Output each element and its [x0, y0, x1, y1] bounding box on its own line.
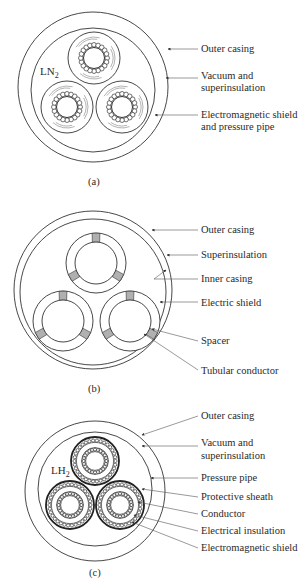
- leader-em-shield: [132, 522, 198, 548]
- conductor-assembly: [100, 291, 160, 351]
- conductor-group: [46, 437, 144, 529]
- em-shield-strand: [88, 479, 91, 482]
- medium-label: LN2: [40, 65, 59, 80]
- conductor-assembly: [66, 233, 126, 293]
- em-shield-strand: [117, 483, 120, 486]
- em-shield-strand: [84, 478, 87, 481]
- conductor-strand: [57, 504, 60, 507]
- label-protective-sheath: Protective sheath: [201, 491, 274, 502]
- conductor-strand: [80, 501, 83, 504]
- leader-protective-sheath: [142, 489, 198, 497]
- em-shield-strand: [111, 470, 114, 473]
- conductor-assembly: [68, 32, 120, 84]
- conductor-core: [112, 97, 133, 118]
- em-shield-strand: [139, 503, 142, 506]
- conductor-assembly: [33, 291, 93, 351]
- conductor-strand: [105, 457, 108, 460]
- em-shield-strand: [74, 467, 77, 470]
- conductor-group: [41, 32, 148, 133]
- em-shield-strand: [74, 452, 77, 455]
- em-shield-strand: [48, 500, 51, 503]
- conductor-strand: [71, 515, 74, 518]
- label-inner-casing: Inner casing: [201, 273, 253, 284]
- em-shield-strand: [48, 503, 51, 506]
- conductor-strand: [107, 506, 110, 509]
- figure-c: LH2 Outer casing Vacuum and superinsulat…: [25, 410, 298, 579]
- label-outer-casing: Outer casing: [201, 410, 255, 421]
- em-shield-strand: [113, 452, 116, 455]
- em-shield-strand: [89, 507, 92, 510]
- em-shield-strand: [99, 440, 102, 443]
- conductor-strand: [82, 462, 85, 465]
- em-shield-strand: [89, 503, 92, 506]
- conductor-strand: [66, 492, 69, 495]
- em-shield-strand: [59, 522, 62, 525]
- conductor-strand: [121, 515, 124, 518]
- em-shield-strand: [63, 523, 66, 526]
- em-shield-strand: [78, 522, 81, 525]
- caption-a: (a): [88, 176, 100, 188]
- conductor-strand: [105, 460, 108, 463]
- em-shield-strand: [109, 522, 112, 525]
- label-superinsulation: Superinsulation: [201, 249, 268, 260]
- label-pressure-pipe: Pressure pipe: [201, 472, 258, 483]
- em-shield-strand: [70, 483, 73, 486]
- label-vacuum-and: Vacuum and: [201, 70, 254, 81]
- label-vacuum-and: Vacuum and: [201, 437, 254, 448]
- cable-cross-section-diagram: LN2 Outer casing Vacuum and superinsulat…: [0, 0, 307, 582]
- label-em-shield: Electromagnetic shield: [201, 109, 298, 120]
- label-spacer: Spacer: [201, 335, 230, 346]
- conductor-assembly: [41, 81, 93, 133]
- em-shield-strand: [103, 478, 106, 481]
- em-shield-strand: [73, 463, 76, 466]
- conductor-strand: [82, 460, 85, 463]
- em-shield-strand: [67, 483, 70, 486]
- caption-b: (b): [88, 383, 101, 395]
- em-shield-strand: [114, 459, 117, 462]
- conductor-strand: [94, 471, 97, 474]
- em-shield-strand: [136, 493, 139, 496]
- conductor-strand: [94, 448, 97, 451]
- em-shield-strand: [86, 493, 89, 496]
- em-shield-strand: [76, 449, 79, 452]
- label-superinsulation: superinsulation: [201, 82, 266, 93]
- em-shield-strand: [88, 496, 91, 499]
- leader-tubular-conductor: [144, 334, 198, 370]
- em-shield-strand: [120, 524, 123, 527]
- em-shield-strand: [99, 496, 102, 499]
- em-shield-strand: [103, 441, 106, 444]
- em-shield-strand: [49, 496, 52, 499]
- em-shield-strand: [74, 523, 77, 526]
- em-shield-strand: [51, 493, 54, 496]
- em-shield-strand: [101, 493, 104, 496]
- em-shield-strand: [86, 514, 89, 517]
- leader-outer-casing: [142, 416, 198, 435]
- conductor-strand: [69, 515, 72, 518]
- em-shield-strand: [109, 485, 112, 488]
- conductor-assembly: [96, 81, 148, 133]
- em-shield-strand: [63, 484, 66, 487]
- em-shield-strand: [73, 456, 76, 459]
- label-outer-casing: Outer casing: [201, 43, 255, 54]
- conductor-strand: [77, 101, 82, 106]
- em-shield-strand: [59, 485, 62, 488]
- conductor-core: [111, 496, 130, 515]
- em-shield-strand: [99, 479, 102, 482]
- label-electric-shield: Electric shield: [201, 297, 262, 308]
- em-shield-strand: [101, 514, 104, 517]
- label-superinsulation: superinsulation: [201, 450, 266, 461]
- em-shield-strand: [92, 480, 95, 483]
- em-shield-strand: [124, 523, 127, 526]
- em-shield-strand: [70, 524, 73, 527]
- conductor-core: [61, 496, 80, 515]
- em-shield-strand: [117, 524, 120, 527]
- conductor-core: [57, 97, 78, 118]
- label-pressure-pipe: and pressure pipe: [201, 121, 275, 132]
- conductor-strand: [116, 492, 119, 495]
- em-shield-strand: [98, 507, 101, 510]
- conductor-strand: [96, 471, 99, 474]
- em-shield-strand: [114, 456, 117, 459]
- label-em-shield: Electromagnetic shield: [201, 542, 298, 553]
- caption-c: (c): [89, 567, 101, 579]
- tubular-conductor: [42, 300, 84, 342]
